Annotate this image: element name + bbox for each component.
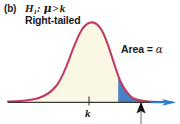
hypothesis-symbol: H [25, 2, 34, 14]
hypothesis-critical-value: k [60, 2, 66, 14]
area-annotation-text: Area = [121, 43, 153, 55]
panel-identifier: (b) [4, 4, 16, 14]
hypothesis-colon: : [37, 2, 41, 14]
axis-tick-label-k: k [85, 108, 91, 119]
alpha-symbol: α [156, 43, 163, 55]
tail-type-label: Right-tailed [25, 15, 80, 26]
hypothesis-operator: > [52, 2, 60, 14]
right-tailed-test-figure: (b) H1: μ>k Right-tailed Area = α k [0, 0, 180, 124]
distribution-body-fill [8, 22, 172, 102]
area-annotation: Area = α [121, 44, 163, 55]
